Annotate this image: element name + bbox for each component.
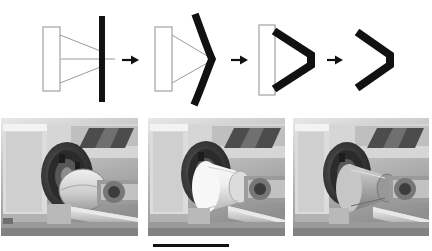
mandrel-body-stage-2: [155, 27, 172, 91]
schematic-stage-2-partially-formed: [155, 14, 212, 105]
process-arrow-3-head: [335, 56, 343, 65]
process-arrow-3: [327, 56, 343, 65]
scale-bar: [153, 244, 229, 247]
figure-root: [0, 0, 432, 251]
schematic-diagram: [0, 0, 432, 115]
workpiece-cone-finished: [357, 32, 390, 88]
schematic-panel: [0, 0, 432, 115]
mandrel-body-stage-3: [259, 25, 275, 95]
lathe-photo-middle: [148, 118, 285, 236]
cone-guide-line-lower-stage-1: [60, 66, 103, 83]
process-arrow-2-head: [240, 56, 248, 65]
lathe-photo-end: [293, 118, 429, 236]
schematic-stage-3-fully-formed: [259, 25, 311, 95]
schematic-stage-4-finished-part: [357, 32, 390, 88]
workpiece-blank-stage-1: [99, 16, 105, 102]
process-arrow-2: [231, 56, 248, 65]
lathe-photo-start: [1, 118, 138, 236]
cone-guide-line-upper-stage-1: [60, 35, 103, 52]
process-arrow-1: [122, 56, 139, 65]
mandrel-body-stage-1: [43, 27, 60, 91]
schematic-stage-1-flat-blank: [43, 16, 115, 102]
process-arrow-1-head: [131, 56, 139, 65]
workpiece-cone-stage-3: [274, 31, 311, 89]
photo-strip: [0, 118, 432, 236]
workpiece-blank-stage-2: [194, 14, 212, 105]
